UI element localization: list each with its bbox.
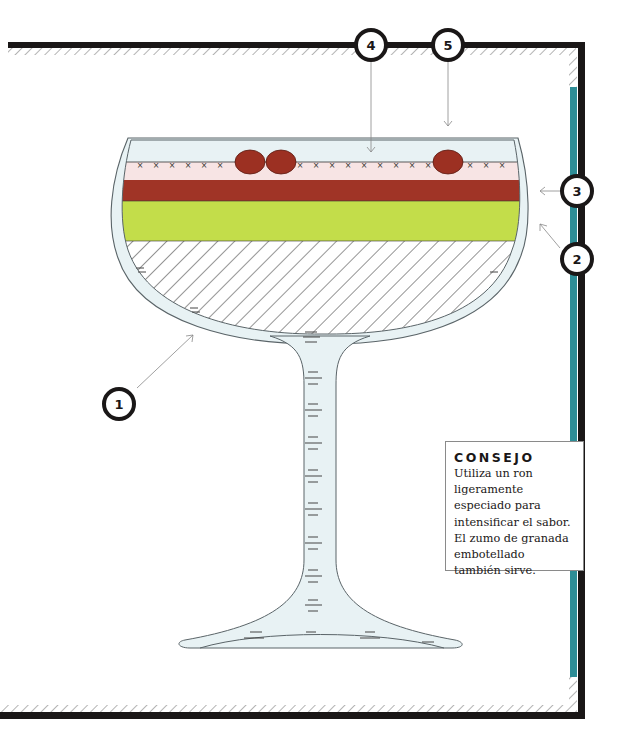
svg-text:×: × xyxy=(467,161,474,170)
garnish-berry xyxy=(266,150,296,174)
callout-5[interactable]: 5 xyxy=(431,28,465,62)
cocktail-diagram: ×××××× ××××××××× ××× xyxy=(0,0,621,735)
svg-text:×: × xyxy=(217,161,224,170)
tip-body: Utiliza un ron ligeramente especiado par… xyxy=(454,466,575,579)
garnish-berry xyxy=(235,150,265,174)
svg-text:×: × xyxy=(297,161,304,170)
callout-4[interactable]: 4 xyxy=(354,28,388,62)
svg-text:×: × xyxy=(137,161,144,170)
svg-text:×: × xyxy=(345,161,352,170)
garnish-berry xyxy=(433,150,463,174)
svg-text:×: × xyxy=(313,161,320,170)
svg-text:×: × xyxy=(201,161,208,170)
svg-text:×: × xyxy=(329,161,336,170)
svg-text:×: × xyxy=(499,161,506,170)
callout-2[interactable]: 2 xyxy=(560,242,594,276)
svg-text:×: × xyxy=(377,161,384,170)
svg-text:×: × xyxy=(483,161,490,170)
svg-text:×: × xyxy=(361,161,368,170)
svg-text:×: × xyxy=(153,161,160,170)
svg-text:×: × xyxy=(185,161,192,170)
svg-text:×: × xyxy=(409,161,416,170)
svg-text:×: × xyxy=(425,161,432,170)
callout-1[interactable]: 1 xyxy=(102,387,136,421)
svg-text:×: × xyxy=(169,161,176,170)
tip-box: CONSEJO Utiliza un ron ligeramente espec… xyxy=(445,441,584,571)
tip-title: CONSEJO xyxy=(454,450,575,465)
svg-text:×: × xyxy=(393,161,400,170)
glass-bowl: ×××××× ××××××××× ××× xyxy=(100,138,540,344)
callout-3[interactable]: 3 xyxy=(560,174,594,208)
